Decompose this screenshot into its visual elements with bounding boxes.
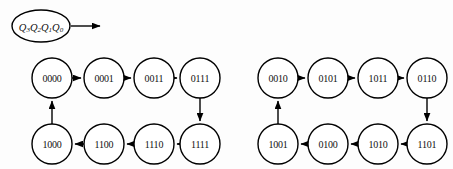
node-left-bottom-0-label: 1000 xyxy=(42,139,61,150)
node-left-top-1-label: 0001 xyxy=(94,73,113,84)
node-left-top-3-label: 0111 xyxy=(191,73,210,84)
node-right-bottom-2-label: 1010 xyxy=(368,139,387,150)
register-state-group: Q3Q2Q1Q0 xyxy=(12,10,100,42)
left-state-cycle-group: 0000 0001 0011 0111 1000 1100 1110 1111 xyxy=(32,58,220,164)
node-left-bottom-3-label: 1111 xyxy=(191,139,209,150)
register-state-text: Q3Q2Q1Q0 xyxy=(19,22,64,34)
node-left-top-2-label: 0011 xyxy=(145,73,164,84)
node-right-top-0-label: 0010 xyxy=(268,73,287,84)
node-left-bottom-1-label: 1100 xyxy=(95,139,114,150)
node-right-bottom-1-label: 0100 xyxy=(318,139,337,150)
node-right-top-3-label: 0110 xyxy=(418,73,437,84)
state-transition-diagram: Q3Q2Q1Q0 0000 0001 0011 0111 1000 1100 xyxy=(0,0,453,169)
node-right-top-2-label: 1011 xyxy=(369,73,388,84)
node-right-bottom-0-label: 1001 xyxy=(268,139,287,150)
diagram-canvas: Q3Q2Q1Q0 0000 0001 0011 0111 1000 1100 xyxy=(0,0,453,169)
node-left-top-0-label: 0000 xyxy=(42,73,61,84)
right-state-cycle-group: 0010 0101 1011 0110 1001 0100 1010 1101 xyxy=(258,58,447,164)
node-right-bottom-3-label: 1101 xyxy=(418,139,437,150)
seed-sub-0: 0 xyxy=(60,26,64,34)
node-left-bottom-2-label: 1110 xyxy=(145,139,164,150)
node-right-top-1-label: 0101 xyxy=(318,73,337,84)
